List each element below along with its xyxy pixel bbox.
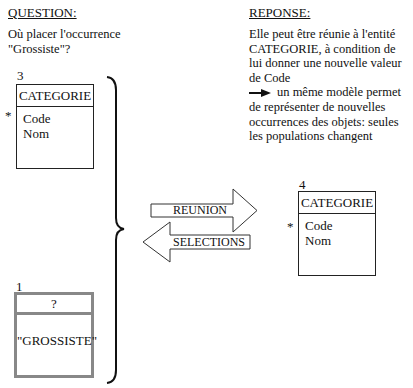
reunion-label: REUNION	[168, 203, 232, 218]
selections-label: SELECTIONS	[168, 235, 250, 250]
curly-brace-icon	[107, 77, 124, 383]
diagram-graphics	[0, 0, 413, 388]
